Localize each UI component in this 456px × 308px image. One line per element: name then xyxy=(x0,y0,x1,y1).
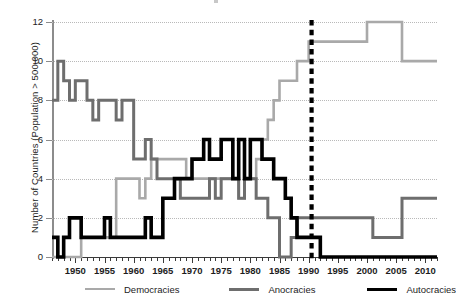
x-tick-1965 xyxy=(163,257,164,263)
x-tick-label-1965: 1965 xyxy=(152,265,173,276)
plot-area: 024681012 195019551960196519701975198019… xyxy=(52,22,437,257)
y-tick-label-12: 12 xyxy=(32,17,43,27)
x-tick-1955 xyxy=(105,257,106,263)
x-tick-1989 xyxy=(303,257,304,261)
x-tick-1982 xyxy=(262,257,263,261)
x-tick-1981 xyxy=(256,257,257,261)
x-tick-1967 xyxy=(175,257,176,261)
x-tick-label-1970: 1970 xyxy=(181,265,202,276)
x-tick-1974 xyxy=(215,257,216,261)
x-tick-1961 xyxy=(140,257,141,261)
y-tick-label-2: 2 xyxy=(38,213,43,223)
legend-label-anocracies: Anocracies xyxy=(268,284,315,295)
x-tick-label-1960: 1960 xyxy=(123,265,144,276)
series-layer xyxy=(52,22,437,257)
x-tick-1972 xyxy=(204,257,205,261)
x-tick-1958 xyxy=(122,257,123,261)
x-tick-1983 xyxy=(268,257,269,261)
x-tick-1973 xyxy=(210,257,211,261)
x-tick-1977 xyxy=(233,257,234,261)
x-tick-label-2000: 2000 xyxy=(356,265,377,276)
x-tick-1953 xyxy=(93,257,94,261)
x-tick-1971 xyxy=(198,257,199,261)
x-tick-1984 xyxy=(274,257,275,261)
y-tick-label-6: 6 xyxy=(38,135,43,145)
x-tick-2012 xyxy=(437,257,438,261)
x-tick-1963 xyxy=(151,257,152,261)
x-tick-1954 xyxy=(99,257,100,261)
x-tick-1956 xyxy=(110,257,111,261)
y-tick-label-4: 4 xyxy=(38,174,43,184)
chart-legend: DemocraciesAnocraciesAutocracies xyxy=(52,281,437,297)
legend-item-anocracies[interactable]: Anocracies xyxy=(229,284,315,295)
legend-swatch-democracies xyxy=(85,288,115,290)
x-tick-1980 xyxy=(250,257,251,263)
x-tick-1959 xyxy=(128,257,129,261)
x-tick-label-1990: 1990 xyxy=(298,265,319,276)
legend-label-autocracies: Autocracies xyxy=(406,284,456,295)
x-tick-label-1950: 1950 xyxy=(65,265,86,276)
x-tick-1962 xyxy=(145,257,146,261)
y-tick-label-0: 0 xyxy=(38,252,43,262)
y-tick-label-8: 8 xyxy=(38,96,43,106)
x-tick-label-2010: 2010 xyxy=(415,265,436,276)
x-tick-1979 xyxy=(245,257,246,261)
legend-item-autocracies[interactable]: Autocracies xyxy=(367,284,456,295)
x-tick-label-1995: 1995 xyxy=(327,265,348,276)
x-tick-1991 xyxy=(315,257,316,261)
x-tick-1966 xyxy=(169,257,170,261)
cropped-title-mark xyxy=(214,0,218,3)
x-tick-1957 xyxy=(116,257,117,261)
x-tick-1964 xyxy=(157,257,158,261)
x-tick-label-1980: 1980 xyxy=(240,265,261,276)
x-tick-1978 xyxy=(239,257,240,261)
legend-item-democracies[interactable]: Democracies xyxy=(85,284,179,295)
x-tick-label-1975: 1975 xyxy=(211,265,232,276)
x-tick-1975 xyxy=(221,257,222,263)
x-tick-1970 xyxy=(192,257,193,263)
x-tick-1988 xyxy=(297,257,298,261)
x-tick-1968 xyxy=(180,257,181,261)
x-tick-label-2005: 2005 xyxy=(386,265,407,276)
legend-label-democracies: Democracies xyxy=(124,284,179,295)
x-tick-1960 xyxy=(134,257,135,263)
x-tick-label-1985: 1985 xyxy=(269,265,290,276)
legend-swatch-autocracies xyxy=(367,288,397,291)
x-tick-1952 xyxy=(87,257,88,261)
x-tick-1969 xyxy=(186,257,187,261)
x-tick-label-1955: 1955 xyxy=(94,265,115,276)
x-tick-1976 xyxy=(227,257,228,261)
legend-swatch-anocracies xyxy=(229,288,259,291)
y-tick-label-10: 10 xyxy=(32,56,43,66)
